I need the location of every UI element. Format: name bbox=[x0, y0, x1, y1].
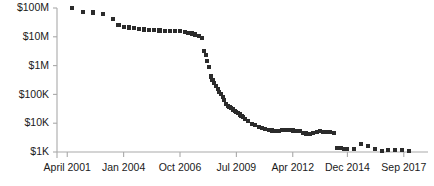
data-point bbox=[111, 17, 115, 21]
x-axis-tick-label: Dec 2014 bbox=[325, 161, 370, 173]
data-point bbox=[386, 148, 390, 152]
y-axis: $100M$10M$1M$100K$10K$1K bbox=[17, 1, 57, 158]
y-axis-tick-label: $100M bbox=[17, 1, 49, 13]
data-point bbox=[407, 149, 411, 153]
data-point bbox=[163, 29, 167, 33]
cost-decline-scatter-chart: $100M$10M$1M$100K$10K$1K April 2001Jan 2… bbox=[0, 0, 434, 186]
data-point bbox=[352, 147, 356, 151]
data-point bbox=[345, 147, 349, 151]
x-axis-tick-label: Apr 2012 bbox=[271, 161, 314, 173]
x-axis: April 2001Jan 2004Oct 2006Jul 2009Apr 20… bbox=[44, 152, 428, 173]
data-point bbox=[70, 6, 74, 10]
y-axis-tick-label: $1M bbox=[29, 59, 49, 71]
data-point bbox=[214, 84, 218, 88]
data-point bbox=[207, 65, 211, 69]
data-point bbox=[137, 27, 141, 31]
x-axis-tick-label: April 2001 bbox=[44, 161, 91, 173]
x-axis-tick-label: Jul 2009 bbox=[217, 161, 257, 173]
data-series-points bbox=[70, 6, 411, 153]
data-point bbox=[147, 28, 151, 32]
y-axis-tick-label: $10K bbox=[24, 116, 49, 128]
data-point bbox=[173, 29, 177, 33]
y-axis-tick-label: $100K bbox=[19, 88, 49, 100]
y-axis-ticks bbox=[53, 8, 57, 152]
data-point bbox=[116, 23, 120, 27]
data-point bbox=[373, 147, 377, 151]
data-point bbox=[205, 59, 209, 63]
data-point bbox=[204, 53, 208, 57]
x-axis-tick-label: Jan 2004 bbox=[102, 161, 145, 173]
x-axis-tick-label: Oct 2006 bbox=[159, 161, 202, 173]
data-point bbox=[202, 49, 206, 53]
data-point bbox=[168, 29, 172, 33]
data-point bbox=[366, 144, 370, 148]
data-point bbox=[157, 28, 161, 32]
data-point bbox=[178, 29, 182, 33]
x-axis-tick-labels: April 2001Jan 2004Oct 2006Jul 2009Apr 20… bbox=[44, 161, 427, 173]
data-point bbox=[380, 149, 384, 153]
data-point bbox=[122, 25, 126, 29]
data-point bbox=[200, 36, 204, 40]
data-point bbox=[332, 131, 336, 135]
data-point bbox=[222, 98, 226, 102]
data-point bbox=[359, 142, 363, 146]
y-axis-tick-labels: $100M$10M$1M$100K$10K$1K bbox=[17, 1, 49, 157]
data-point bbox=[101, 12, 105, 16]
chart-container: $100M$10M$1M$100K$10K$1K April 2001Jan 2… bbox=[0, 0, 434, 186]
data-point bbox=[393, 148, 397, 152]
data-point bbox=[127, 25, 131, 29]
data-point bbox=[400, 148, 404, 152]
data-point bbox=[91, 10, 95, 14]
y-axis-tick-label: $10M bbox=[23, 30, 49, 42]
x-axis-tick-label: Sep 2017 bbox=[381, 161, 426, 173]
data-point bbox=[81, 10, 85, 14]
data-point bbox=[152, 28, 156, 32]
y-axis-tick-label: $1K bbox=[30, 145, 49, 157]
data-point bbox=[142, 27, 146, 31]
data-point bbox=[132, 26, 136, 30]
x-axis-ticks bbox=[67, 152, 404, 157]
